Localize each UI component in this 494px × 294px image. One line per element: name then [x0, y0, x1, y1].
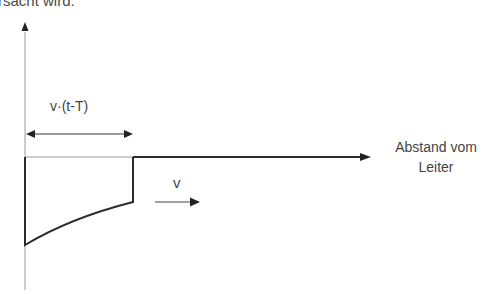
velocity-label: v — [173, 174, 181, 191]
span-label: v·(t-T) — [50, 98, 88, 114]
x-axis-label-line1: Abstand vom — [383, 137, 489, 157]
x-axis-label: Abstand vom Leiter — [383, 137, 489, 177]
y-axis-arrowhead-icon — [22, 22, 29, 31]
span-double-arrow-icon — [26, 130, 133, 138]
x-axis-arrowhead-icon — [360, 153, 371, 161]
x-axis — [25, 153, 371, 161]
x-axis-label-line2: Leiter — [383, 157, 489, 177]
potential-profile-curve — [25, 157, 133, 245]
y-axis — [22, 22, 29, 290]
velocity-arrow-icon — [155, 198, 200, 207]
